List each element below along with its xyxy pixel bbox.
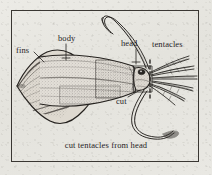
label-fins: fins [16,46,29,55]
squid-diagram-figure: fins body head tentacles cut cut tentacl… [0,0,212,175]
squid-tentacle-spray [150,56,197,105]
label-head: head [121,39,137,48]
squid-head [134,66,152,92]
label-cut: cut [116,97,127,106]
label-tentacles: tentacles [152,40,183,49]
tentacle-long-lower [132,90,179,139]
squid-mantle-body [36,50,146,112]
figure-caption: cut tentacles from head [0,141,212,150]
label-body: body [58,34,75,43]
